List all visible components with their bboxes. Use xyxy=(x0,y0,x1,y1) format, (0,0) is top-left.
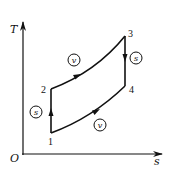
process-symbol-3-4: s xyxy=(130,52,142,64)
arrow-3-4-icon xyxy=(123,54,128,62)
process-4-1 xyxy=(51,86,125,133)
y-axis-label: T xyxy=(10,23,19,36)
arrow-1-2-icon xyxy=(49,108,54,116)
process-symbol-1-2: s xyxy=(30,106,42,118)
origin-label: O xyxy=(10,152,19,165)
point-3-label: 3 xyxy=(128,28,133,39)
point-1-label: 1 xyxy=(48,136,53,147)
process-2-3 xyxy=(51,36,125,89)
x-axis-label: s xyxy=(154,155,160,168)
svg-text:v: v xyxy=(72,56,77,65)
svg-text:s: s xyxy=(134,54,138,63)
ts-diagram: T s O 1 2 3 4 v s s v xyxy=(0,0,169,171)
svg-text:s: s xyxy=(34,108,38,117)
point-2-label: 2 xyxy=(41,84,46,95)
point-4-label: 4 xyxy=(129,84,134,95)
arrow-4-1-icon xyxy=(92,109,100,115)
svg-text:v: v xyxy=(98,121,103,130)
process-symbol-4-1: v xyxy=(94,119,106,131)
process-symbol-2-3: v xyxy=(68,54,80,66)
